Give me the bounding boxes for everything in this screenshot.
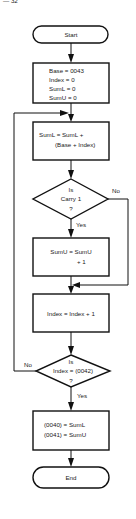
flowchart: — 32 Start Base = 0043 Index = 0 SumL = … (0, 0, 136, 519)
carry-line-1: Is (69, 186, 74, 193)
store-box: (0040) = SumL (0041) = SumU (33, 411, 109, 450)
start-terminal: Start (33, 26, 108, 43)
start-label: Start (64, 31, 77, 38)
index-yes-label: Yes (77, 392, 87, 399)
arrow-right-icon (60, 110, 69, 116)
sum-low-line-1: SumL = SumL + (39, 131, 84, 138)
arrow-down-icon (68, 114, 74, 122)
arrow-down-icon (68, 229, 74, 238)
carry-yes-label: Yes (76, 221, 86, 228)
sum-high-line-1: SumU = SumU (50, 248, 91, 255)
sum-high-box: SumU = SumU + 1 (33, 238, 109, 276)
index-decision: Is Index = (0042) ? (36, 355, 110, 387)
arrow-down-icon (68, 54, 74, 63)
index-decision-line-2: Index = (0042) (53, 367, 93, 374)
carry-line-2: Carry 1 (61, 195, 82, 202)
store-line-2: (0041) = SumU (44, 431, 86, 438)
carry-decision: Is Carry 1 ? (33, 179, 108, 219)
init-line-3: SumL = 0 (49, 85, 76, 92)
end-label: End (65, 474, 77, 481)
init-box: Base = 0043 Index = 0 SumL = 0 SumU = 0 (33, 63, 109, 103)
init-line-1: Base = 0043 (49, 67, 84, 74)
init-line-4: SumU = 0 (49, 94, 77, 101)
arrow-down-icon (68, 402, 74, 411)
index-decision-line-3: ? (69, 377, 73, 384)
increment-line-1: Index = Index + 1 (47, 310, 95, 317)
sum-low-line-2: (Base + Index) (55, 141, 95, 148)
arrow-down-icon (68, 286, 74, 294)
page-number: — 32 (3, 0, 18, 4)
carry-no-label: No (112, 187, 120, 194)
increment-box: Index = Index + 1 (33, 294, 109, 332)
end-terminal: End (33, 467, 109, 488)
store-line-1: (0040) = SumL (44, 421, 86, 428)
init-line-2: Index = 0 (49, 76, 75, 83)
arrow-down-icon (68, 346, 74, 355)
index-decision-line-1: Is (69, 358, 74, 365)
sum-low-box: SumL = SumL + (Base + Index) (33, 122, 109, 160)
sum-high-line-2: + 1 (77, 258, 86, 265)
arrow-down-icon (68, 458, 74, 467)
carry-line-3: ? (69, 205, 73, 212)
index-no-label: No (24, 361, 32, 368)
arrow-down-icon (68, 170, 74, 179)
